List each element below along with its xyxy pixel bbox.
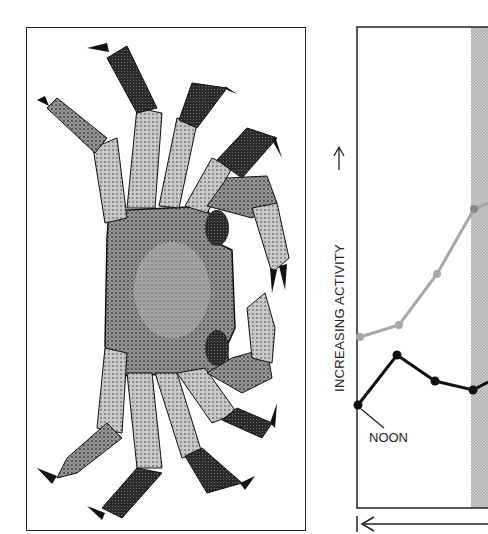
y-axis-label: INCREASING ACTIVITY xyxy=(332,244,347,392)
activity-chart xyxy=(0,0,488,534)
time-arrow xyxy=(357,516,488,532)
y-axis-arrow xyxy=(334,147,344,170)
noon-annotation: NOON xyxy=(369,430,408,445)
night-shading xyxy=(471,27,488,508)
black-series xyxy=(354,351,488,410)
noon-leader-line xyxy=(361,409,384,428)
gray-series xyxy=(356,203,488,341)
